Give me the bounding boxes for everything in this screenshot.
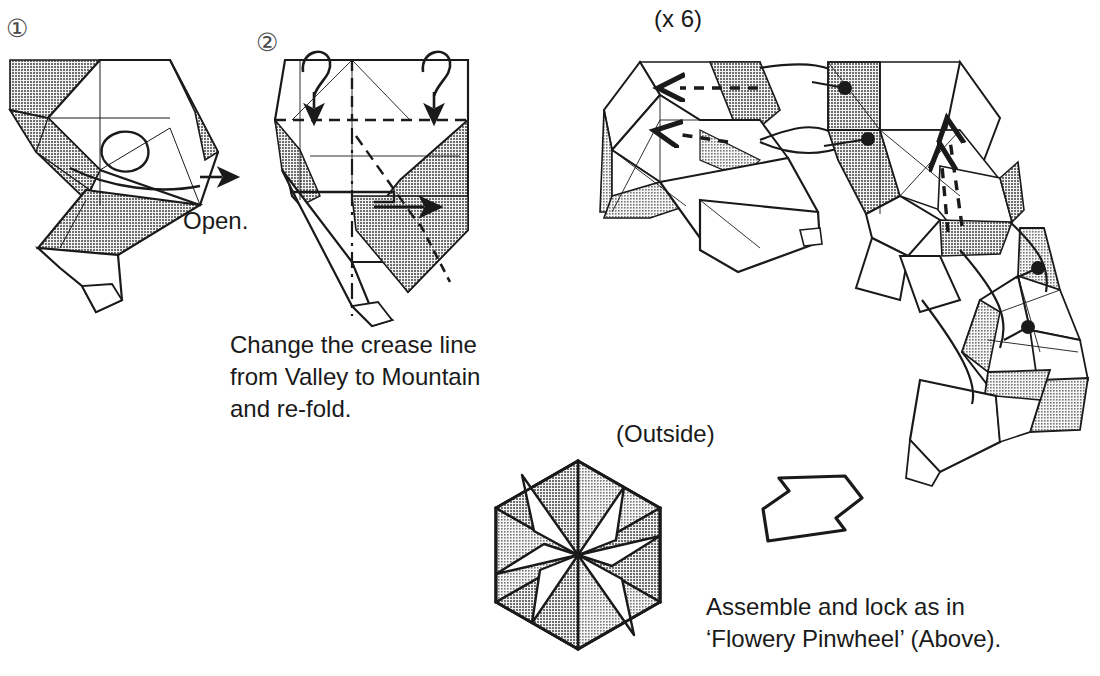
assemble-caption-line-2: ‘Flowery Pinwheel’ (Above). — [706, 624, 1001, 655]
outside-label: (Outside) — [616, 419, 715, 450]
step-2-number: ② — [256, 26, 278, 58]
facet-white — [352, 302, 392, 326]
facet-white — [996, 396, 1040, 442]
step-2-caption-line-1: Change the crease line — [230, 330, 477, 361]
step-2-model — [275, 52, 468, 326]
facet-gray — [38, 190, 200, 255]
step-2-caption-line-2: from Valley to Mountain — [230, 362, 480, 393]
step-1-model — [10, 60, 222, 312]
repeat-count-label: (x 6) — [654, 4, 702, 35]
diagram-page: ① ② Open. Change the crease line from Va… — [0, 0, 1100, 676]
assembly-unit-left — [600, 62, 822, 272]
assembly-unit-right-top — [828, 62, 1024, 312]
step-1-number: ① — [6, 12, 28, 44]
finished-pinwheel — [496, 461, 660, 649]
step-2-caption-line-3: and re-fold. — [230, 394, 351, 425]
assemble-caption-line-1: Assemble and lock as in — [706, 592, 965, 623]
facet-gray — [940, 220, 1012, 256]
step-1-caption: Open. — [183, 206, 248, 237]
facet-white — [800, 228, 822, 246]
facet-white — [900, 256, 960, 312]
origami-artwork — [0, 0, 1100, 676]
outline-arrow-down-left-icon — [763, 476, 862, 541]
